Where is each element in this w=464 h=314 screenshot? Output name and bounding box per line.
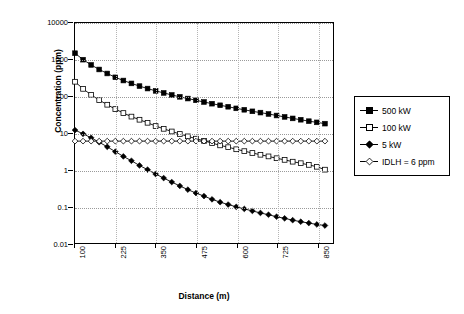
legend-marker-filled-diamond-icon — [360, 140, 378, 150]
y-tick — [68, 133, 73, 134]
legend-item-0[interactable]: 500 kW — [360, 102, 445, 119]
x-tick-label: 600 — [241, 246, 250, 259]
data-point — [145, 86, 150, 91]
data-point — [306, 220, 312, 226]
data-point — [161, 126, 166, 131]
y-tick — [68, 59, 73, 60]
data-point — [129, 158, 135, 164]
x-tick — [318, 244, 319, 248]
x-tick — [155, 244, 156, 248]
data-point — [282, 115, 287, 120]
y-tick — [68, 170, 73, 171]
data-point — [73, 79, 78, 84]
data-point — [298, 117, 303, 122]
y-tick — [68, 22, 73, 23]
y-tick — [68, 96, 73, 97]
x-gridline — [197, 23, 198, 243]
data-point — [97, 67, 102, 72]
data-point — [80, 138, 86, 144]
data-point — [323, 121, 328, 126]
legend-marker-open-diamond-icon — [360, 157, 378, 167]
series-idlh-6-ppm — [72, 138, 328, 144]
data-point — [217, 199, 223, 205]
y-gridline — [75, 208, 333, 209]
data-point — [105, 71, 110, 76]
data-point — [226, 104, 231, 109]
data-point — [169, 179, 175, 185]
data-point — [250, 151, 255, 156]
data-point — [226, 145, 231, 150]
y-tick-label: 10000 — [47, 18, 68, 27]
plot-area-wrapper: 0.010.1110100100010000 10022535047560072… — [0, 0, 464, 314]
data-point — [242, 149, 247, 154]
data-point — [242, 107, 247, 112]
data-point — [298, 161, 303, 166]
data-point — [120, 154, 126, 160]
x-tick — [237, 244, 238, 248]
data-point — [120, 138, 126, 144]
data-point — [290, 116, 295, 121]
x-gridline — [319, 23, 320, 243]
data-point — [72, 138, 78, 144]
data-point — [258, 110, 263, 115]
series-canvas — [75, 23, 333, 243]
legend-label-3: IDLH = 6 ppm — [382, 157, 435, 167]
series-100-kw — [73, 79, 328, 172]
data-point — [218, 103, 223, 108]
data-point — [104, 138, 110, 144]
y-gridline — [75, 60, 333, 61]
x-tick-label: 850 — [322, 246, 331, 259]
data-point — [258, 210, 264, 216]
y-axis-title: Concentration (ppm) — [53, 31, 63, 151]
legend-item-2[interactable]: 5 kW — [360, 136, 445, 153]
data-point — [298, 138, 304, 144]
data-point — [137, 117, 142, 122]
data-point — [185, 187, 191, 193]
legend-label-1: 100 kW — [382, 123, 411, 133]
data-point — [241, 138, 247, 144]
data-point — [298, 219, 304, 225]
legend-item-3[interactable]: IDLH = 6 ppm — [360, 153, 445, 170]
data-point — [105, 102, 110, 107]
y-gridline — [75, 171, 333, 172]
x-tick-label: 475 — [200, 246, 209, 259]
x-axis-labels: 100225350475600725850 — [74, 246, 336, 286]
data-point — [137, 138, 143, 144]
x-tick-label: 225 — [119, 246, 128, 259]
data-point — [306, 119, 311, 124]
data-point — [89, 63, 94, 68]
legend-item-1[interactable]: 100 kW — [360, 119, 445, 136]
data-point — [322, 223, 328, 229]
data-point — [104, 144, 110, 150]
y-tick-label: 0.1 — [58, 203, 68, 212]
y-gridline — [75, 134, 333, 135]
y-gridline — [75, 97, 333, 98]
x-tick — [115, 244, 116, 248]
data-point — [282, 215, 288, 221]
data-point — [145, 138, 151, 144]
data-point — [266, 154, 271, 159]
data-point — [161, 138, 167, 144]
x-tick — [277, 244, 278, 248]
legend-label-0: 500 kW — [382, 106, 411, 116]
y-tick — [68, 207, 73, 208]
chart-legend: 500 kW 100 kW 5 kW IDLH = 6 ppm — [354, 96, 450, 176]
x-axis-title: Distance (m) — [74, 291, 334, 301]
data-point — [202, 100, 207, 105]
data-point — [282, 138, 288, 144]
legend-marker-filled-square-icon — [360, 106, 378, 116]
chart-figure: 0.010.1110100100010000 10022535047560072… — [0, 0, 464, 314]
data-point — [266, 212, 272, 218]
x-tick — [196, 244, 197, 248]
x-gridline — [238, 23, 239, 243]
x-tick — [74, 244, 75, 248]
x-gridline — [278, 23, 279, 243]
data-point — [225, 138, 231, 144]
y-tick-label: 0.01 — [53, 240, 68, 249]
y-tick — [68, 244, 73, 245]
x-tick-label: 100 — [78, 246, 87, 259]
data-point — [290, 159, 295, 164]
x-gridline — [116, 23, 117, 243]
x-tick-label: 725 — [281, 246, 290, 259]
data-point — [290, 217, 296, 223]
